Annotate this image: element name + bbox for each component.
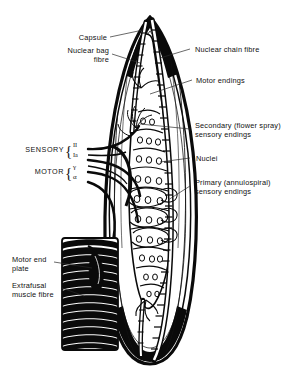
label-primary-endings-line1: Primary (annulospiral) — [195, 178, 271, 187]
label-secondary-endings-line1: Secondary (flower spray) — [195, 121, 281, 130]
label-motor-end-plate-line1: Motor end — [12, 255, 47, 264]
extrafusal-muscle-fibre — [62, 238, 118, 352]
label-fibre-gamma: γ — [72, 163, 76, 171]
sensory-brace: { — [65, 143, 72, 159]
label-nuclei: Nuclei — [196, 154, 218, 163]
label-fibre-alpha: α — [73, 173, 77, 181]
label-nuclear-chain-fibre: Nuclear chain fibre — [195, 45, 259, 54]
label-motor: MOTOR — [35, 167, 64, 176]
label-fibre-group-Ia: Ia — [73, 151, 78, 158]
label-primary-endings-line2: sensory endings — [195, 187, 251, 196]
label-nuclear-bag-fibre-line2: fibre — [94, 55, 109, 64]
nerve-group-labels: SENSORY { II Ia MOTOR { γ α — [25, 141, 78, 181]
capsule-bottom-pole — [113, 306, 187, 362]
label-extrafusal-fibre-line2: muscle fibre — [12, 290, 54, 299]
label-nuclear-bag-fibre-line1: Nuclear bag — [67, 46, 109, 55]
figure-canvas: Capsule Nuclear bag fibre Nuclear chain … — [0, 0, 288, 374]
label-capsule: Capsule — [79, 33, 107, 42]
label-motor-end-plate-line2: plate — [12, 264, 29, 273]
label-secondary-endings-line2: sensory endings — [195, 130, 251, 139]
label-extrafusal-fibre-line1: Extrafusal — [12, 281, 47, 290]
motor-brace: { — [65, 165, 72, 181]
label-motor-endings: Motor endings — [196, 76, 245, 85]
label-sensory: SENSORY — [25, 145, 64, 154]
label-fibre-group-II: II — [73, 141, 77, 148]
muscle-spindle-diagram: Capsule Nuclear bag fibre Nuclear chain … — [0, 0, 288, 374]
